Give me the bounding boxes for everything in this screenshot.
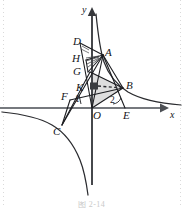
point-label-O: O [93, 110, 101, 121]
numeric-label-2: 2 [110, 96, 115, 106]
segment-D-O [80, 43, 92, 108]
x-axis-label: x [170, 110, 174, 120]
axis-group [0, 7, 169, 185]
figure-container: D A H G K F C O B E 1 2 x y 图 2-14 [0, 0, 183, 208]
y-axis-arrow-icon [88, 7, 96, 16]
figure-caption: 图 2-14 [0, 201, 183, 208]
right-angle-marker [90, 83, 98, 90]
segment-H-G [86, 60, 88, 72]
hyperbola-branch-quadrant-3 [2, 112, 88, 195]
geometry-diagram [0, 0, 183, 208]
point-label-C: C [53, 126, 60, 137]
numeric-label-1: 1 [75, 95, 80, 105]
point-label-F: F [61, 91, 68, 102]
point-label-K: K [76, 82, 83, 93]
point-label-B: B [126, 80, 133, 91]
point-label-D: D [73, 36, 81, 47]
x-axis-arrow-icon [160, 104, 169, 113]
point-label-E: E [123, 110, 130, 121]
point-label-G: G [73, 66, 81, 77]
point-label-H: H [72, 53, 80, 64]
y-axis-label: y [82, 5, 86, 15]
shaded-triangle-region [92, 72, 123, 108]
point-label-A: A [105, 47, 112, 58]
